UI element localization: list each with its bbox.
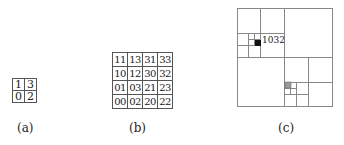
cell: 11 xyxy=(113,53,128,67)
caption-b: (b) xyxy=(129,121,146,135)
cell: 12 xyxy=(128,67,143,81)
caption-a: (a) xyxy=(17,121,34,135)
cell: 13 xyxy=(128,53,143,67)
cell: 21 xyxy=(143,81,158,95)
cell: 0 xyxy=(13,91,25,103)
cell: 00 xyxy=(113,95,128,109)
caption-c: (c) xyxy=(278,121,294,135)
grid-a: 1 3 0 2 xyxy=(12,78,37,103)
cell: 33 xyxy=(158,53,173,67)
cell: 10 xyxy=(113,67,128,81)
gray-cell xyxy=(285,82,291,88)
cell: 31 xyxy=(143,53,158,67)
black-cell xyxy=(255,40,261,46)
cell: 30 xyxy=(143,67,158,81)
cell: 22 xyxy=(158,95,173,109)
cell: 32 xyxy=(158,67,173,81)
cell: 2 xyxy=(25,91,37,103)
cell: 01 xyxy=(113,81,128,95)
cell: 03 xyxy=(128,81,143,95)
cell: 23 xyxy=(158,81,173,95)
quadtree-diagram xyxy=(236,7,334,108)
cell: 02 xyxy=(128,95,143,109)
grid-b: 11 13 31 33 10 12 30 32 01 03 21 23 00 0… xyxy=(112,52,173,109)
cell: 1 xyxy=(13,79,25,91)
cell: 20 xyxy=(143,95,158,109)
cell: 3 xyxy=(25,79,37,91)
cell-label-1032: 1032 xyxy=(262,36,285,45)
